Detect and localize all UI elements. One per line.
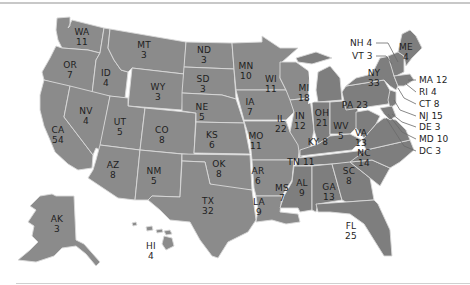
state-ks[interactable] — [194, 122, 250, 154]
label-mo: MO11 — [248, 131, 263, 151]
label-wy: WY3 — [151, 82, 166, 102]
state-md-de[interactable] — [380, 106, 396, 120]
label-pa: PA23 — [342, 100, 368, 110]
label-fl: FL25 — [345, 221, 357, 241]
callout-ct: CT8 — [419, 99, 440, 109]
label-sc: SC8 — [343, 166, 355, 186]
label-in: IN12 — [294, 111, 306, 131]
label-al: AL9 — [296, 178, 308, 198]
label-tn: TN11 — [287, 157, 315, 167]
callout-nj: NJ15 — [419, 111, 443, 121]
label-ut: UT5 — [114, 117, 127, 137]
state-mi[interactable] — [316, 66, 342, 102]
label-ny: NY33 — [368, 68, 381, 88]
state-hi-big[interactable] — [162, 236, 174, 250]
label-ar: AR6 — [252, 166, 265, 186]
label-ks: KS6 — [206, 130, 218, 150]
label-ms: MS7 — [275, 183, 289, 203]
leader-ct — [398, 88, 416, 104]
label-ne: NE5 — [196, 102, 209, 122]
label-ak: AK3 — [51, 214, 63, 234]
callout-vt: VT3 — [352, 51, 372, 61]
label-sd: SD3 — [196, 74, 209, 94]
label-il: IL22 — [275, 114, 287, 134]
label-ky: KY8 — [308, 137, 328, 147]
callout-de: DE3 — [419, 122, 440, 132]
label-ia: IA7 — [245, 97, 254, 117]
label-nd: ND3 — [197, 45, 211, 65]
label-ok: OK8 — [212, 159, 225, 179]
label-la: LA9 — [253, 197, 265, 217]
label-co: CO8 — [155, 125, 169, 145]
label-id: ID4 — [101, 68, 111, 88]
label-tx: TX32 — [202, 196, 214, 216]
label-nc: NC14 — [357, 148, 370, 168]
label-va: VA13 — [355, 128, 367, 148]
leader-ri — [406, 84, 416, 92]
label-ca: CA54 — [52, 125, 65, 145]
label-or: OR7 — [63, 60, 77, 80]
label-wi: WI11 — [265, 74, 277, 94]
state-mi-up[interactable] — [296, 52, 332, 64]
label-mt: MT3 — [137, 40, 151, 60]
label-az: AZ8 — [107, 160, 120, 180]
state-hi[interactable] — [132, 222, 172, 235]
callout-dc: DC3 — [419, 146, 441, 156]
label-nv: NV4 — [79, 106, 92, 126]
label-nm: NM5 — [147, 166, 162, 186]
label-wa: WA11 — [75, 27, 90, 47]
label-mi: MI18 — [298, 83, 310, 103]
callout-ma: MA12 — [419, 75, 447, 85]
callout-nh: NH4 — [350, 38, 372, 48]
callout-ri: RI4 — [419, 87, 437, 97]
label-wv: WV5 — [333, 121, 348, 141]
label-ga: GA13 — [322, 182, 336, 202]
label-hi: HI4 — [146, 241, 156, 261]
label-oh: OH21 — [315, 108, 329, 128]
state-nj[interactable] — [388, 90, 396, 108]
label-mn: MN10 — [239, 61, 254, 81]
bottom-rule — [16, 283, 470, 284]
callout-md: MD10 — [419, 134, 448, 144]
label-me: ME4 — [399, 42, 413, 62]
